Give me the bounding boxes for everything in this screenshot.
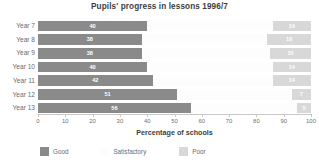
category-label: Year 13 [13,101,39,115]
legend-swatch-satisfactory-icon [100,147,109,156]
category-label: Year 7 [16,19,38,33]
bar-value-label: 14 [273,75,311,86]
bar-value-label: 38 [38,34,142,45]
bar-segment-poor: 14 [273,75,311,86]
bar-segment-good: 40 [38,21,147,32]
category-label: Year 10 [13,60,39,74]
axis-tick [147,114,148,117]
legend-label: Good [53,148,68,155]
stacked-bar: 4014 [38,60,311,74]
chart-row: Year 93815 [0,46,319,60]
stacked-bar: 4014 [38,19,311,33]
bar-value-label: 7 [292,89,311,100]
axis-tick [120,114,121,117]
stacked-bar: 4214 [38,74,311,88]
bar-segment-satisfactory [142,34,268,45]
bar-segment-poor: 15 [270,48,311,59]
chart-row: Year 13565 [0,101,319,115]
bar-value-label: 5 [297,103,311,114]
bar-segment-poor: 16 [267,34,311,45]
chart-row: Year 104014 [0,60,319,74]
plot-area: Year 74014Year 83816Year 93815Year 10401… [0,19,319,115]
bar-segment-poor: 14 [273,21,311,32]
axis-tick-label: 70 [226,118,233,124]
bar-segment-satisfactory [191,103,297,114]
axis-tick-label: 10 [62,118,69,124]
category-label: Year 11 [13,74,38,88]
legend-label: Satisfactory [113,148,146,155]
axis-tick [175,114,176,117]
bar-segment-good: 56 [38,103,191,114]
legend-swatch-poor-icon [179,147,188,156]
stacked-bar: 3815 [38,46,311,60]
axis-tick-label: 0 [36,118,39,124]
bar-chart: Pupils' progress in lessons 1996/7 Year … [0,0,319,165]
axis-tick-label: 30 [117,118,124,124]
axis-tick [202,114,203,117]
stacked-bar: 565 [38,101,311,115]
bar-value-label: 40 [38,21,147,32]
chart-row: Year 114214 [0,74,319,88]
legend-item-satisfactory[interactable]: Satisfactory [100,147,146,156]
axis-tick-label: 50 [171,118,178,124]
legend-swatch-good-icon [40,147,49,156]
chart-row: Year 12517 [0,88,319,102]
bar-value-label: 38 [38,48,142,59]
axis-tick-label: 40 [144,118,151,124]
chart-row: Year 74014 [0,19,319,33]
bar-value-label: 14 [273,21,311,32]
bar-segment-satisfactory [142,48,270,59]
axis-tick [38,114,39,117]
chart-title: Pupils' progress in lessons 1996/7 [0,2,319,11]
x-axis: 0102030405060708090100 [38,114,311,115]
bar-segment-poor: 7 [292,89,311,100]
bar-value-label: 51 [38,89,177,100]
bar-segment-satisfactory [147,21,273,32]
bar-segment-good: 38 [38,34,142,45]
axis-tick [229,114,230,117]
bar-value-label: 42 [38,75,153,86]
stacked-bar: 3816 [38,33,311,47]
bar-segment-good: 38 [38,48,142,59]
bar-segment-good: 42 [38,75,153,86]
axis-tick-label: 60 [199,118,206,124]
bar-value-label: 56 [38,103,191,114]
axis-tick-label: 80 [253,118,260,124]
axis-tick [311,114,312,117]
axis-tick-label: 90 [280,118,287,124]
axis-tick [93,114,94,117]
chart-legend: GoodSatisfactoryPoor [40,144,206,158]
bar-value-label: 40 [38,62,147,73]
bar-value-label: 15 [270,48,311,59]
bar-segment-poor: 14 [273,62,311,73]
bar-segment-poor: 5 [297,103,311,114]
chart-row: Year 83816 [0,33,319,47]
legend-item-good[interactable]: Good [40,147,68,156]
bar-segment-satisfactory [177,89,292,100]
axis-tick [256,114,257,117]
axis-tick-label: 20 [89,118,96,124]
bar-segment-satisfactory [153,75,273,86]
axis-tick [284,114,285,117]
legend-item-poor[interactable]: Poor [179,147,205,156]
x-axis-title: Percentage of schools [38,128,311,137]
bar-value-label: 16 [267,34,311,45]
category-label: Year 9 [16,46,38,60]
legend-label: Poor [192,148,205,155]
category-label: Year 8 [16,33,38,47]
bar-segment-good: 51 [38,89,177,100]
axis-tick-label: 100 [306,118,316,124]
bar-segment-good: 40 [38,62,147,73]
axis-tick [65,114,66,117]
category-label: Year 12 [13,88,39,102]
stacked-bar: 517 [38,88,311,102]
bar-segment-satisfactory [147,62,273,73]
bar-value-label: 14 [273,62,311,73]
